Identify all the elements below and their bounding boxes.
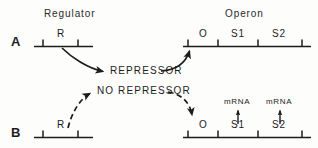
row-a-regulator-line — [34, 40, 93, 47]
row-a-state-label-repressor: REPRESSOR — [110, 66, 183, 76]
row-b-segment-label-o: O — [199, 120, 208, 130]
row-letter-a: A — [11, 35, 21, 48]
row-a-segment-label-s1: S1 — [231, 29, 245, 39]
arrow-regulator-to-no-repressor — [68, 94, 90, 129]
row-b-regulator-gene-label: R — [57, 120, 65, 130]
row-b-segment-label-s2: S2 — [272, 120, 286, 130]
row-a-regulator-gene-label: R — [57, 29, 65, 39]
operon-model-figure: Regulator Operon A R O S1 S2 REPRESSOR B… — [0, 0, 318, 148]
row-b-operon-line — [183, 131, 311, 138]
row-a-segment-label-o: O — [199, 29, 208, 39]
column-heading-operon: Operon — [225, 9, 264, 19]
mrna-label-s1: mRNA — [224, 98, 250, 106]
row-b-regulator-line — [34, 131, 93, 138]
row-a-segment-label-s2: S2 — [272, 29, 286, 39]
row-a-operon-line — [183, 40, 311, 47]
row-b-state-label-no-repressor: NO REPRESSOR — [97, 86, 191, 96]
arrow-regulator-to-repressor — [62, 48, 103, 72]
row-letter-b: B — [11, 126, 21, 139]
mrna-label-s2: mRNA — [266, 98, 292, 106]
row-b-segment-label-s1: S1 — [231, 120, 245, 130]
column-heading-regulator: Regulator — [44, 9, 95, 19]
